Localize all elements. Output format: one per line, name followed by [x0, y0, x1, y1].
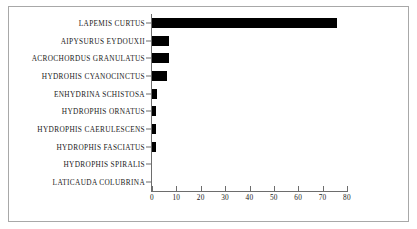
bar: [152, 124, 156, 134]
bar: [152, 89, 157, 99]
y-axis-tick: [146, 40, 151, 41]
bar: [152, 142, 156, 152]
bar: [152, 106, 156, 116]
x-axis-tick: [274, 186, 275, 191]
category-label: LATICAUDA COLUBRINA: [53, 178, 145, 187]
bar: [152, 53, 169, 63]
bar: [152, 71, 167, 81]
category-label: LAPEMIS CURTUS: [79, 18, 145, 27]
y-axis-tick: [146, 58, 151, 59]
bar-row: HYDROPHIS FASCIATUS: [0, 138, 417, 156]
x-axis-tick: [250, 186, 251, 191]
y-axis-tick: [146, 182, 151, 183]
x-axis-tick-label: 10: [172, 193, 180, 202]
category-label: HYDROPHIS CAERULESCENS: [37, 125, 145, 134]
x-axis-tick-label: 30: [221, 193, 229, 202]
bar-row: HYDROPHIS CAERULESCENS: [0, 120, 417, 138]
x-axis-tick-label: 0: [150, 193, 154, 202]
y-axis-tick: [146, 22, 151, 23]
x-axis-tick: [347, 186, 348, 191]
bar-row: HYDROPHIS ORNATUS: [0, 103, 417, 121]
category-label: HYDROPHIS ORNATUS: [62, 107, 145, 116]
y-axis-tick: [146, 75, 151, 76]
x-axis-tick: [201, 186, 202, 191]
category-label: HYDROPHIS SPIRALIS: [63, 160, 145, 169]
bar-row: LATICAUDA COLUBRINA: [0, 173, 417, 191]
category-label: ENHYDRINA SCHISTOSA: [54, 89, 145, 98]
plot-area: LAPEMIS CURTUSAIPYSURUS EYDOUXIIACROCHOR…: [0, 0, 417, 229]
bar-row: HYDROHIS CYANOCINCTUS: [0, 67, 417, 85]
bar-row: ENHYDRINA SCHISTOSA: [0, 85, 417, 103]
x-axis-tick-label: 70: [319, 193, 327, 202]
category-label: HYDROHIS CYANOCINCTUS: [42, 71, 145, 80]
category-label: HYDROPHIS FASCIATUS: [56, 142, 145, 151]
x-axis-tick: [152, 186, 153, 191]
y-axis-tick: [146, 146, 151, 147]
x-axis-line: [151, 191, 348, 192]
x-axis-tick: [225, 186, 226, 191]
x-axis-tick: [323, 186, 324, 191]
bar: [152, 36, 169, 46]
x-axis-tick-label: 50: [270, 193, 278, 202]
y-axis-tick: [146, 93, 151, 94]
chart-figure: LAPEMIS CURTUSAIPYSURUS EYDOUXIIACROCHOR…: [0, 0, 417, 229]
y-axis-tick: [146, 129, 151, 130]
x-axis-tick-label: 40: [246, 193, 254, 202]
x-axis-tick-label: 20: [197, 193, 205, 202]
x-axis-tick-label: 80: [343, 193, 351, 202]
y-axis-tick: [146, 164, 151, 165]
bar-row: AIPYSURUS EYDOUXII: [0, 32, 417, 50]
category-label: AIPYSURUS EYDOUXII: [61, 36, 145, 45]
bar-row: HYDROPHIS SPIRALIS: [0, 156, 417, 174]
bar: [152, 18, 337, 28]
x-axis-tick-label: 60: [294, 193, 302, 202]
x-axis-tick: [298, 186, 299, 191]
y-axis-tick: [146, 111, 151, 112]
bar-row: ACROCHORDUS GRANULATUS: [0, 49, 417, 67]
category-label: ACROCHORDUS GRANULATUS: [32, 54, 145, 63]
x-axis-tick: [176, 186, 177, 191]
bar-row: LAPEMIS CURTUS: [0, 14, 417, 32]
